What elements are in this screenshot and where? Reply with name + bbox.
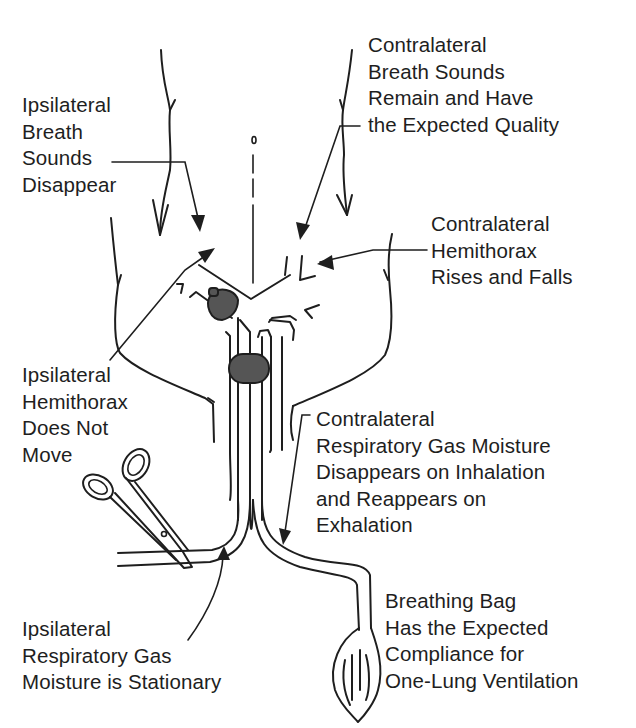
label-line: Compliance for [385,641,578,668]
label-ipsilateral-hemithorax: Ipsilateral Hemithorax Does Not Move [22,362,128,468]
label-line: Has the Expected [385,615,578,642]
label-line: and Reappears on [316,486,551,513]
label-line: Hemithorax [22,389,128,416]
label-line: the Expected Quality [368,112,559,139]
label-line: Hemithorax [431,238,573,265]
label-line: Rises and Falls [431,264,573,291]
label-line: One-Lung Ventilation [385,668,578,695]
label-line: Breathing Bag [385,588,578,615]
label-line: Ipsilateral [22,362,128,389]
double-lumen-tube [226,318,282,520]
label-line: Ipsilateral [22,616,221,643]
label-contralateral-breath-sounds: Contralateral Breath Sounds Remain and H… [368,32,559,138]
left-chest-lines [111,50,175,285]
label-contralateral-hemithorax: Contralateral Hemithorax Rises and Falls [431,211,573,291]
label-ipsilateral-breath-sounds: Ipsilateral Breath Sounds Disappear [22,92,116,198]
label-line: Contralateral [368,32,559,59]
diagram-canvas: Ipsilateral Breath Sounds Disappear Cont… [0,0,636,728]
label-line: Ipsilateral [22,92,116,119]
bronchial-tree [177,256,319,340]
tracheal-cuff [229,354,269,383]
label-line: Respiratory Gas Moisture [316,433,551,460]
label-line: Sounds [22,145,116,172]
label-line: Remain and Have [368,85,559,112]
label-line: Moisture is Stationary [22,669,221,696]
label-line: Respiratory Gas [22,643,221,670]
reservoir-bag-icon [333,628,380,722]
label-line: Move [22,442,128,469]
label-ipsilateral-gas-moisture: Ipsilateral Respiratory Gas Moisture is … [22,616,221,696]
leader-arrows [110,126,427,640]
label-line: Contralateral [431,211,573,238]
label-line: Breath Sounds [368,59,559,86]
label-line: Exhalation [316,512,551,539]
label-line: Does Not [22,415,128,442]
label-line: Contralateral [316,406,551,433]
label-line: Disappears on Inhalation [316,459,551,486]
label-breathing-bag: Breathing Bag Has the Expected Complianc… [385,588,578,694]
label-line: Disappear [22,172,116,199]
trachea-midline [252,137,256,284]
label-line: Breath [22,119,116,146]
left-lung-outline [115,285,214,442]
label-contralateral-gas-moisture: Contralateral Respiratory Gas Moisture D… [316,406,551,539]
